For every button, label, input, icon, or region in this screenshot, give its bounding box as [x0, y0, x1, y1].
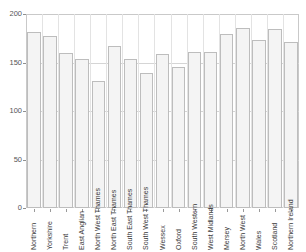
bar: [220, 34, 233, 208]
x-axis-label: South East Thames: [126, 189, 133, 250]
x-tick-mark: [34, 209, 35, 212]
category-separator: [154, 14, 155, 208]
x-axis-label: Wessex: [159, 225, 166, 250]
bar: [27, 32, 40, 208]
y-tick-label-100: 100: [0, 107, 22, 115]
bar-chart: 050100150200 NorthernYorkshireTrentEast …: [0, 0, 306, 252]
bar: [284, 42, 297, 208]
category-separator: [42, 14, 43, 208]
category-separator: [251, 14, 252, 208]
category-separator: [267, 14, 268, 208]
category-separator: [58, 14, 59, 208]
x-tick-mark: [50, 209, 51, 212]
x-axis-label: South Western: [191, 204, 198, 250]
x-tick-mark: [275, 209, 276, 212]
bar: [204, 52, 217, 208]
y-tick-label-150: 150: [0, 59, 22, 67]
x-tick-mark: [163, 209, 164, 212]
x-tick-mark: [259, 209, 260, 212]
x-axis-label: Yorkshire: [46, 221, 53, 250]
bar: [75, 59, 88, 208]
category-separator: [90, 14, 91, 208]
category-separator: [235, 14, 236, 208]
bar: [172, 67, 185, 208]
bar: [156, 54, 169, 208]
category-separator: [106, 14, 107, 208]
x-tick-mark: [66, 209, 67, 212]
x-tick-mark: [179, 209, 180, 212]
category-separator: [171, 14, 172, 208]
x-axis-label: South West Thames: [142, 187, 149, 250]
x-axis-label: Wales: [255, 231, 262, 250]
x-axis-label: North West Thames: [94, 188, 101, 250]
category-separator: [203, 14, 204, 208]
bar: [252, 40, 265, 208]
y-tick-label-50: 50: [0, 156, 22, 164]
category-separator: [283, 14, 284, 208]
x-axis-label: Northern Ireland: [287, 199, 294, 250]
bar: [59, 53, 72, 208]
x-tick-mark: [227, 209, 228, 212]
bars-group: [26, 14, 299, 208]
y-tick-label-0: 0: [0, 204, 22, 212]
bar: [268, 29, 281, 208]
y-tick-label-200: 200: [0, 10, 22, 18]
x-axis-label: North East Thames: [110, 190, 117, 250]
bar: [188, 52, 201, 208]
x-axis-labels-group: NorthernYorkshireTrentEast AnglianNorth …: [26, 209, 299, 252]
category-separator: [219, 14, 220, 208]
bar: [236, 28, 249, 208]
category-separator: [138, 14, 139, 208]
bar: [108, 46, 121, 208]
x-axis-label: North West: [239, 215, 246, 250]
x-axis-label: East Anglian: [78, 211, 85, 250]
x-axis-label: Mersey: [223, 227, 230, 250]
x-axis-label: Scotland: [271, 223, 278, 250]
category-separator: [74, 14, 75, 208]
x-tick-mark: [243, 209, 244, 212]
category-separator: [187, 14, 188, 208]
x-axis-label: Oxford: [175, 229, 182, 250]
x-axis-label: Trent: [62, 234, 69, 250]
x-axis-label: West Midlands: [207, 204, 214, 250]
category-separator: [122, 14, 123, 208]
x-axis-label: Northern: [30, 223, 37, 250]
bar: [124, 59, 137, 208]
bar: [43, 36, 56, 208]
